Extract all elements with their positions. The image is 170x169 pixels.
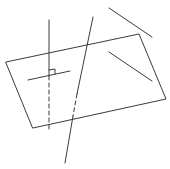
geometry-diagram <box>0 0 170 169</box>
segment-above-plane <box>109 8 152 37</box>
oblique-line-bottom <box>65 116 73 163</box>
segment-in-plane <box>109 52 152 81</box>
oblique-line-hidden <box>73 94 77 116</box>
right-angle-mark <box>49 69 55 74</box>
oblique-line-top <box>77 17 93 94</box>
plane-parallelogram <box>6 34 166 128</box>
